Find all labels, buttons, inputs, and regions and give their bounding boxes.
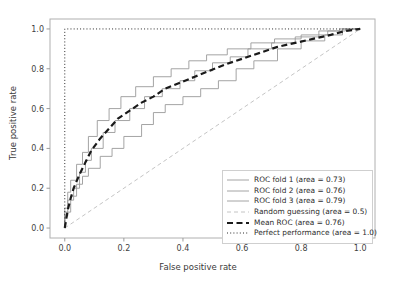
legend-item[interactable]: Perfect performance (area = 1.0) [227,228,367,239]
y-tick-label: 0.2 [8,184,44,193]
legend-label: Mean ROC (area = 0.76) [254,218,345,228]
legend-label: ROC fold 1 (area = 0.73) [254,175,345,185]
legend-label: Perfect performance (area = 1.0) [254,228,377,238]
x-tick-label: 0.6 [236,244,249,253]
legend-label: ROC fold 2 (area = 0.76) [254,186,345,196]
legend-line-sample [227,186,249,196]
legend-line-sample [227,228,249,238]
legend-item[interactable]: ROC fold 3 (area = 0.79) [227,196,367,207]
x-tick-label: 0.2 [117,244,130,253]
legend-label: ROC fold 3 (area = 0.79) [254,196,345,206]
legend-item[interactable]: ROC fold 2 (area = 0.76) [227,186,367,197]
y-axis-label: True positive rate [8,68,18,178]
legend-line-sample [227,207,249,217]
legend-item[interactable]: Random guessing (area = 0.5) [227,207,367,218]
y-tick-label: 0.0 [8,224,44,233]
x-axis-label: False positive rate [0,262,396,272]
chart-legend: ROC fold 1 (area = 0.73)ROC fold 2 (area… [222,170,373,244]
legend-line-sample [227,218,249,228]
legend-item[interactable]: Mean ROC (area = 0.76) [227,217,367,228]
legend-label: Random guessing (area = 0.5) [254,207,367,217]
x-tick-label: 1.0 [354,244,367,253]
legend-item[interactable]: ROC fold 1 (area = 0.73) [227,175,367,186]
x-tick-label: 0.0 [58,244,71,253]
roc-curve-figure: 0.00.20.40.60.81.00.00.20.40.60.81.0 Fal… [0,0,396,284]
x-tick-label: 0.4 [177,244,190,253]
y-tick-label: 1.0 [8,24,44,33]
legend-line-sample [227,175,249,185]
legend-line-sample [227,196,249,206]
x-tick-label: 0.8 [295,244,308,253]
